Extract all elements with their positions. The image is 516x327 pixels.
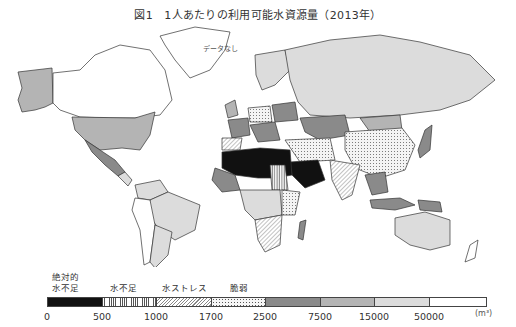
legend-seg-vulnerable: [212, 298, 266, 306]
australia: [395, 212, 450, 250]
scandinavia: [255, 50, 290, 90]
ukraine: [272, 102, 298, 122]
canada: [53, 45, 172, 118]
legend-label-absolute: 絶対的 水不足: [52, 272, 79, 294]
figure-title: 図1 1人あたりの利用可能水資源量（2013年）: [0, 6, 516, 22]
legend-tick-1000: 1000: [144, 311, 168, 322]
new-guinea: [418, 200, 442, 212]
legend-unit: (m³): [475, 309, 492, 318]
alaska: [18, 68, 53, 112]
legend-tick-50000: 50000: [414, 311, 444, 322]
germany-pl: [248, 106, 272, 122]
legend-bar: [47, 297, 487, 307]
spain: [222, 138, 242, 150]
france: [228, 118, 250, 138]
italy-balkans: [250, 122, 280, 142]
legend-seg-absolute: [48, 298, 103, 306]
madagascar: [298, 220, 306, 240]
east-africa: [282, 190, 300, 215]
legend-seg-2500-7500: [266, 298, 321, 306]
legend-tick-7500: 7500: [308, 311, 332, 322]
no-data-label: データなし: [203, 43, 238, 53]
legend-seg-scarcity: [103, 298, 157, 306]
southern-africa: [255, 215, 282, 252]
se-asia: [365, 172, 388, 195]
legend-tick-2500: 2500: [253, 311, 277, 322]
legend-label-scarcity: 水不足: [110, 283, 137, 294]
russia: [285, 35, 495, 118]
legend-tick-0: 0: [44, 311, 50, 322]
legend-tick-1700: 1700: [199, 311, 223, 322]
turkey-iran: [285, 138, 335, 162]
legend-seg-stress: [157, 298, 212, 306]
legend-seg-50000-plus: [430, 298, 486, 306]
japan: [418, 125, 432, 158]
uk: [225, 100, 238, 118]
new-zealand: [465, 240, 478, 262]
legend-seg-7500-15000: [321, 298, 375, 306]
world-map: [0, 22, 516, 267]
sudan: [270, 165, 288, 190]
indonesia: [370, 198, 415, 210]
usa: [72, 112, 155, 150]
legend-label-stress: 水ストレス: [162, 283, 207, 294]
legend-label-absolute-line1: 絶対的: [52, 272, 79, 283]
legend-label-absolute-line2: 水不足: [52, 283, 79, 294]
kazakhstan: [300, 115, 350, 140]
legend-label-vulnerable: 脆弱: [230, 283, 248, 294]
legend-tick-15000: 15000: [359, 311, 389, 322]
central-africa: [240, 190, 282, 220]
arabia: [290, 160, 325, 188]
legend-tick-500: 500: [93, 311, 111, 322]
india: [330, 160, 360, 200]
legend-seg-15000-50000: [375, 298, 430, 306]
